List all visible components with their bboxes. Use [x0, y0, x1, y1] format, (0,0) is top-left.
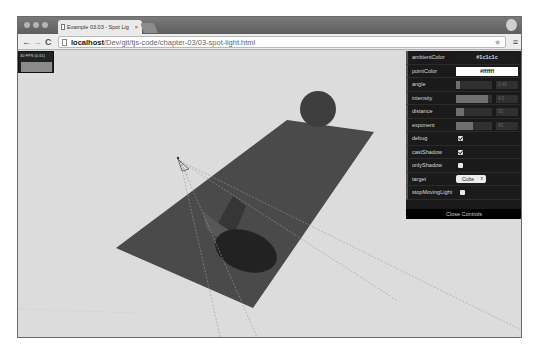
angle-value-input[interactable]: 0.40 — [496, 81, 518, 89]
address-bar[interactable]: localhost/Dev/git/tjs-code/chapter-03/03… — [58, 36, 506, 48]
dat-gui-panel: ambientColor #1c1c1c pointColor #ffffff … — [406, 51, 522, 219]
control-ambient-color[interactable]: ambientColor #1c1c1c — [406, 51, 522, 65]
fps-graph — [21, 62, 52, 72]
only-shadow-label: onlyShadow — [412, 159, 442, 172]
new-tab-button[interactable] — [140, 23, 158, 33]
cast-shadow-label: castShadow — [412, 146, 442, 159]
angle-slider-fill — [456, 81, 460, 89]
only-shadow-checkbox[interactable] — [458, 163, 463, 168]
sphere — [300, 91, 336, 127]
tab-close-icon[interactable]: × — [134, 20, 138, 34]
ambient-color-label: ambientColor — [412, 51, 445, 64]
ambient-color-value[interactable]: #1c1c1c — [456, 53, 518, 62]
point-color-label: pointColor — [412, 65, 437, 78]
webgl-viewport[interactable]: 30 FPS (0-61) ambientColor #1c1c1c point… — [18, 51, 521, 338]
control-intensity[interactable]: intensity 4.5 — [406, 92, 522, 106]
point-color-value[interactable]: #ffffff — [456, 67, 518, 76]
control-point-color[interactable]: pointColor #ffffff — [406, 65, 522, 79]
fps-text: 30 FPS (0-61) — [19, 52, 53, 61]
title-bar: Example 03.03 - Spot Lig × — [18, 17, 521, 34]
ground-plane — [116, 120, 374, 308]
distance-slider-fill — [456, 108, 464, 116]
zoom-window-button[interactable] — [42, 22, 48, 28]
control-angle[interactable]: angle 0.40 — [406, 78, 522, 92]
spotlight-icon — [177, 157, 189, 171]
control-stop-moving-light[interactable]: stopMovingLight — [406, 186, 522, 200]
url-host: localhost — [71, 38, 104, 47]
stop-moving-light-checkbox[interactable] — [460, 190, 465, 195]
browser-window: Example 03.03 - Spot Lig × ← → C localho… — [17, 16, 522, 338]
page-icon — [61, 24, 65, 30]
distance-slider[interactable] — [456, 108, 492, 116]
browser-toolbar: ← → C localhost/Dev/git/tjs-code/chapter… — [18, 34, 521, 50]
fps-stats-panel[interactable]: 30 FPS (0-61) — [18, 51, 54, 73]
intensity-value-input[interactable]: 4.5 — [496, 95, 518, 103]
close-controls-button[interactable]: Close Controls — [406, 209, 522, 219]
browser-tab[interactable]: Example 03.03 - Spot Lig × — [58, 20, 142, 34]
menu-icon[interactable]: ≡ — [513, 36, 518, 48]
forward-icon[interactable]: → — [33, 36, 42, 48]
distance-label: distance — [412, 105, 433, 118]
grid-line — [18, 309, 138, 313]
control-distance[interactable]: distance 30 — [406, 105, 522, 119]
url-path: /Dev/git/tjs-code/chapter-03/03-spot-lig… — [104, 38, 255, 47]
exponent-slider[interactable] — [456, 122, 492, 130]
target-selected-value: Cube — [462, 176, 474, 182]
intensity-slider[interactable] — [456, 95, 492, 103]
exponent-label: exponent — [412, 119, 435, 132]
intensity-slider-fill — [456, 95, 488, 103]
back-icon[interactable]: ← — [22, 36, 31, 48]
control-only-shadow[interactable]: onlyShadow — [406, 159, 522, 173]
control-cast-shadow[interactable]: castShadow — [406, 146, 522, 160]
debug-checkbox[interactable] — [458, 136, 463, 141]
target-label: target — [412, 173, 426, 186]
tab-title: Example 03.03 - Spot Lig — [67, 24, 129, 30]
exponent-value-input[interactable]: 43 — [496, 122, 518, 130]
exponent-slider-fill — [456, 122, 473, 130]
cast-shadow-checkbox[interactable] — [458, 150, 463, 155]
control-exponent[interactable]: exponent 43 — [406, 119, 522, 133]
control-debug[interactable]: debug — [406, 132, 522, 146]
target-select[interactable]: Cube ⇕ — [456, 175, 486, 183]
angle-slider[interactable] — [456, 81, 492, 89]
document-icon — [62, 39, 67, 46]
bookmark-star-icon[interactable]: ★ — [494, 37, 501, 48]
distance-value-input[interactable]: 30 — [496, 108, 518, 116]
profile-avatar-icon[interactable] — [506, 19, 517, 31]
reload-icon[interactable]: C — [45, 36, 52, 48]
select-arrows-icon: ⇕ — [480, 175, 483, 183]
angle-label: angle — [412, 78, 425, 91]
stop-moving-light-label: stopMovingLight — [412, 186, 452, 199]
minimize-window-button[interactable] — [33, 22, 39, 28]
control-target[interactable]: target Cube ⇕ — [406, 173, 522, 187]
debug-label: debug — [412, 132, 427, 145]
close-window-button[interactable] — [24, 22, 30, 28]
intensity-label: intensity — [412, 92, 432, 105]
